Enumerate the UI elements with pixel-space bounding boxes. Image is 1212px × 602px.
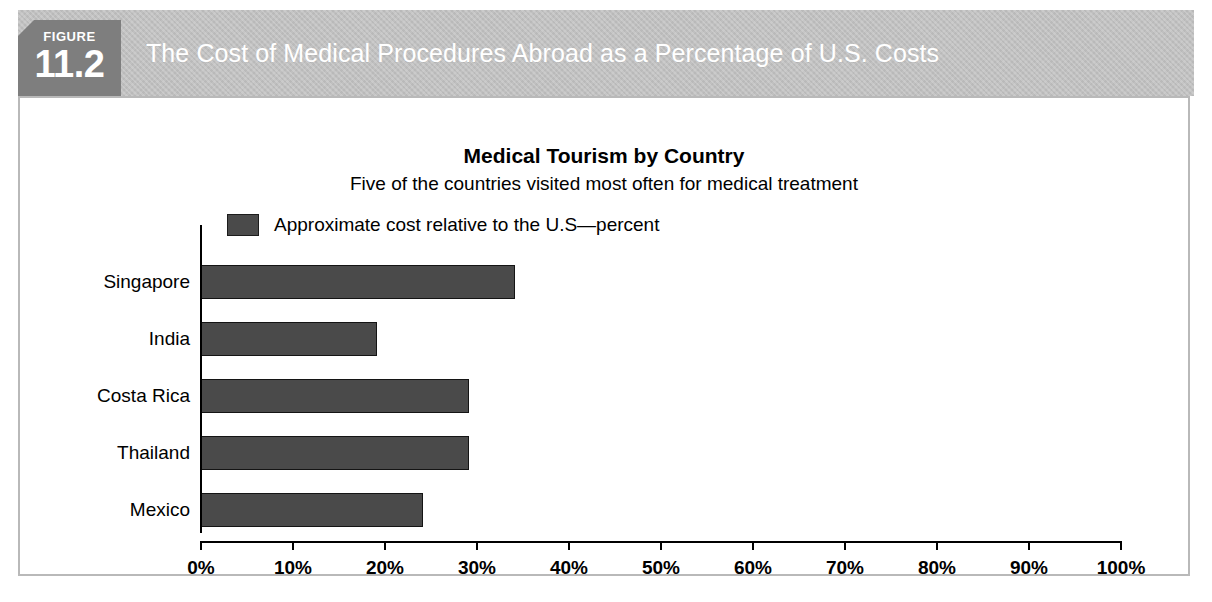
x-tick-label: 80%: [918, 557, 956, 579]
category-label: Mexico: [130, 493, 190, 527]
x-tick-label: 10%: [274, 557, 312, 579]
legend-label: Approximate cost relative to the U.S—per…: [274, 214, 659, 236]
x-tick: [844, 542, 846, 550]
bar-row: Mexico: [202, 493, 423, 527]
bar: [202, 436, 469, 470]
x-tick: [476, 542, 478, 550]
x-tick: [200, 542, 202, 550]
x-tick-label: 90%: [1010, 557, 1048, 579]
figure-container: FIGURE 11.2 The Cost of Medical Procedur…: [0, 0, 1212, 602]
x-tick: [384, 542, 386, 550]
plot-area: 0%10%20%30%40%50%60%70%80%90%100% Singap…: [200, 253, 1130, 543]
bar: [202, 265, 515, 299]
x-tick-label: 20%: [366, 557, 404, 579]
figure-tab-number: 11.2: [18, 42, 121, 86]
category-label: Thailand: [117, 436, 190, 470]
chart-panel: Medical Tourism by Country Five of the c…: [18, 96, 1190, 576]
chart-subtitle: Five of the countries visited most often…: [20, 173, 1188, 195]
bar: [202, 322, 377, 356]
x-tick-label: 100%: [1097, 557, 1146, 579]
figure-banner-title: The Cost of Medical Procedures Abroad as…: [146, 10, 939, 96]
x-tick: [660, 542, 662, 550]
bar-row: Singapore: [202, 265, 515, 299]
x-tick-label: 50%: [642, 557, 680, 579]
x-tick-label: 40%: [550, 557, 588, 579]
bar: [202, 493, 423, 527]
x-tick: [292, 542, 294, 550]
bar-row: Thailand: [202, 436, 469, 470]
x-tick: [1028, 542, 1030, 550]
bar: [202, 379, 469, 413]
x-tick-label: 60%: [734, 557, 772, 579]
category-label: India: [149, 322, 190, 356]
x-tick-label: 70%: [826, 557, 864, 579]
x-tick: [568, 542, 570, 550]
chart-title: Medical Tourism by Country: [20, 144, 1188, 168]
x-tick-label: 0%: [187, 557, 214, 579]
chart-legend: Approximate cost relative to the U.S—per…: [227, 214, 659, 236]
figure-banner: FIGURE 11.2 The Cost of Medical Procedur…: [18, 10, 1194, 96]
legend-swatch-icon: [227, 214, 259, 236]
x-tick: [936, 542, 938, 550]
figure-number-tab: FIGURE 11.2: [18, 20, 121, 96]
x-tick-label: 30%: [458, 557, 496, 579]
category-label: Singapore: [103, 265, 190, 299]
bar-row: India: [202, 322, 377, 356]
x-tick: [752, 542, 754, 550]
bar-series: SingaporeIndiaCosta RicaThailandMexico: [202, 253, 1130, 541]
category-label: Costa Rica: [97, 379, 190, 413]
x-tick: [1120, 542, 1122, 550]
bar-row: Costa Rica: [202, 379, 469, 413]
